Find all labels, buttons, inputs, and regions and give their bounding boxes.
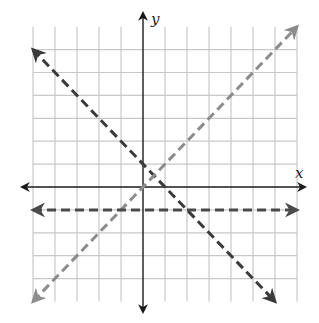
coordinate-plane: x y	[0, 0, 319, 323]
y-axis-label: y	[150, 10, 160, 28]
x-axis-label: x	[295, 164, 304, 182]
